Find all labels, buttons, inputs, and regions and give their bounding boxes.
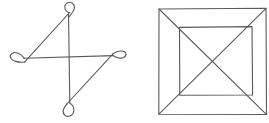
canvas-background (0, 0, 269, 123)
figure-canvas (0, 0, 269, 123)
